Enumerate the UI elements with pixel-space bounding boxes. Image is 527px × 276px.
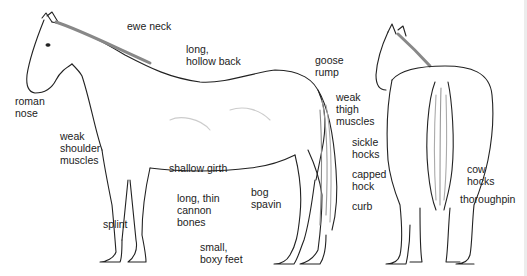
rear-view-horse bbox=[376, 24, 493, 264]
label-hollow-back: long, hollow back bbox=[186, 43, 241, 67]
label-boxy-feet: small, boxy feet bbox=[200, 241, 243, 265]
label-splint: splint bbox=[103, 218, 128, 230]
label-curb: curb bbox=[352, 200, 372, 212]
label-ewe-neck: ewe neck bbox=[127, 20, 171, 32]
label-weak-thigh: weak thigh muscles bbox=[336, 91, 375, 127]
label-shallow-girth: shallow girth bbox=[169, 162, 227, 174]
label-goose-rump: goose rump bbox=[315, 54, 344, 78]
label-cow-hocks: cow hocks bbox=[467, 163, 494, 187]
label-capped-hock: capped hock bbox=[352, 168, 386, 192]
label-sickle-hocks: sickle hocks bbox=[352, 136, 379, 160]
label-roman-nose: roman nose bbox=[15, 95, 45, 119]
label-bog-spavin: bog spavin bbox=[251, 186, 281, 210]
label-thoroughpin: thoroughpin bbox=[460, 193, 515, 205]
label-cannon-bones: long, thin cannon bones bbox=[177, 192, 220, 228]
label-weak-shoulder: weak shoulder muscles bbox=[60, 130, 100, 166]
diagram-canvas: ewe neck long, hollow back roman nose go… bbox=[0, 0, 527, 276]
